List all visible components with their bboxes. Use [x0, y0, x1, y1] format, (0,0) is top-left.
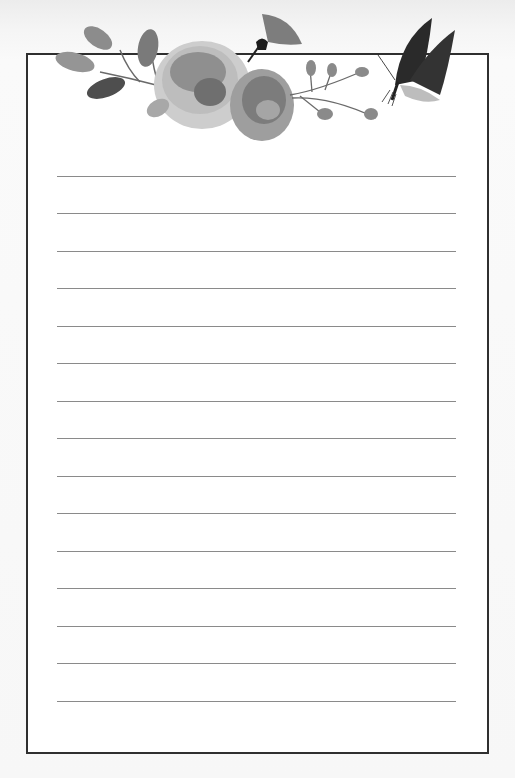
ruled-line: [57, 363, 456, 364]
leaf-branch-icon: [53, 21, 161, 103]
ruled-line: [57, 438, 456, 439]
floral-ornament: [0, 0, 515, 160]
rosehip-branch-icon: [290, 60, 378, 120]
ruled-line: [57, 551, 456, 552]
ruled-line: [57, 251, 456, 252]
ruled-line: [57, 701, 456, 702]
ruled-line: [57, 176, 456, 177]
ruled-line: [57, 213, 456, 214]
ruled-line: [57, 663, 456, 664]
rose-icon: [230, 69, 294, 141]
butterfly-icon: [378, 18, 455, 106]
bellflower-icon: [248, 14, 302, 62]
ruled-line: [57, 401, 456, 402]
ruled-line: [57, 588, 456, 589]
ruled-line: [57, 626, 456, 627]
ruled-line: [57, 326, 456, 327]
ruled-line: [57, 288, 456, 289]
ruled-line: [57, 513, 456, 514]
ruled-line: [57, 476, 456, 477]
